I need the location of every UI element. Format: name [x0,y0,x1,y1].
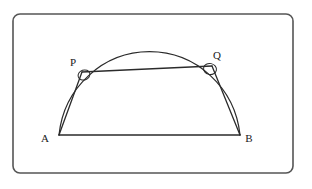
geometry-figure-canvas: A B P Q [0,0,312,189]
vertex-label-P: P [70,56,76,68]
vertex-label-B: B [245,132,252,144]
vertex-label-A: A [41,132,49,144]
vertex-label-Q: Q [213,49,221,61]
geometry-diagram: A B P Q [0,0,312,189]
rounded-rectangle-border [13,14,293,173]
